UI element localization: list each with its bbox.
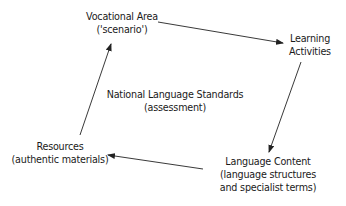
node-learning-line1: Learning xyxy=(289,32,331,45)
diagram-canvas: Vocational Area ('scenario') Learning Ac… xyxy=(0,0,346,206)
node-content-title: Language Content xyxy=(220,155,316,168)
node-vocational-subtitle: ('scenario') xyxy=(86,23,158,36)
node-language-content: Language Content (language structures an… xyxy=(220,155,316,194)
node-resources-subtitle: (authentic materials) xyxy=(12,153,109,166)
arrow-content-to-resources xyxy=(108,155,203,169)
node-resources: Resources (authentic materials) xyxy=(12,140,109,166)
node-center-subtitle: (assessment) xyxy=(107,101,244,114)
node-resources-title: Resources xyxy=(12,140,109,153)
node-center-title: National Language Standards xyxy=(107,88,244,101)
node-content-line3: and specialist terms) xyxy=(220,181,316,194)
arrow-vocational-to-learning xyxy=(158,22,283,43)
node-learning-activities: Learning Activities xyxy=(289,32,331,58)
node-vocational-area: Vocational Area ('scenario') xyxy=(86,10,158,36)
node-vocational-title: Vocational Area xyxy=(86,10,158,23)
node-national-standards: National Language Standards (assessment) xyxy=(107,88,244,114)
arrow-learning-to-content xyxy=(269,62,301,152)
node-learning-line2: Activities xyxy=(289,45,331,58)
node-content-line2: (language structures xyxy=(220,168,316,181)
